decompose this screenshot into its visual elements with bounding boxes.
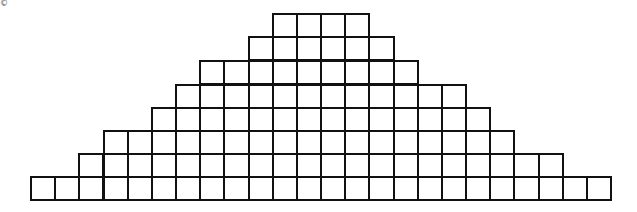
grid-cell: [320, 107, 346, 132]
grid-cell: [223, 60, 249, 85]
grid-cell: [54, 176, 80, 201]
grid-cell: [513, 153, 539, 178]
grid-cell: [296, 176, 322, 201]
grid-cell: [344, 60, 370, 85]
grid-cell: [368, 84, 394, 109]
grid-cell: [465, 153, 491, 178]
grid-cell: [393, 153, 419, 178]
grid-cell: [368, 107, 394, 132]
grid-cell: [417, 107, 443, 132]
grid-cell: [272, 153, 298, 178]
grid-cell: [272, 13, 298, 38]
grid-cell: [393, 176, 419, 201]
grid-cell: [296, 84, 322, 109]
grid-cell: [199, 153, 225, 178]
grid-cell: [320, 153, 346, 178]
grid-cell: [320, 176, 346, 201]
grid-cell: [393, 130, 419, 155]
grid-cell: [199, 130, 225, 155]
grid-cell: [272, 36, 298, 61]
grid-cell: [78, 176, 104, 201]
grid-cell: [272, 60, 298, 85]
grid-cell: [586, 176, 612, 201]
grid-cell: [248, 84, 274, 109]
grid-cell: [272, 130, 298, 155]
grid-cell: [417, 153, 443, 178]
grid-cell: [248, 153, 274, 178]
grid-cell: [296, 130, 322, 155]
grid-cell: [296, 153, 322, 178]
grid-cell: [393, 107, 419, 132]
grid-cell: [223, 84, 249, 109]
grid-cell: [272, 84, 298, 109]
grid-cell: [465, 107, 491, 132]
grid-cell: [248, 36, 274, 61]
grid-cell: [368, 153, 394, 178]
grid-cell: [103, 176, 129, 201]
grid-cell: [417, 130, 443, 155]
grid-cell: [320, 13, 346, 38]
grid-cell: [30, 176, 56, 201]
grid-cell: [465, 176, 491, 201]
grid-cell: [368, 130, 394, 155]
grid-cell: [151, 107, 177, 132]
grid-cell: [296, 13, 322, 38]
grid-cell: [489, 153, 515, 178]
grid-cell: [223, 130, 249, 155]
grid-cell: [417, 84, 443, 109]
grid-cell: [344, 153, 370, 178]
grid-cell: [199, 107, 225, 132]
grid-cell: [344, 176, 370, 201]
grid-cell: [175, 130, 201, 155]
grid-cell: [248, 130, 274, 155]
grid-cell: [344, 36, 370, 61]
grid-cell: [320, 84, 346, 109]
grid-cell: [393, 60, 419, 85]
grid-cell: [248, 107, 274, 132]
grid-cell: [513, 176, 539, 201]
grid-cell: [368, 36, 394, 61]
grid-cell: [127, 176, 153, 201]
grid-cell: [320, 36, 346, 61]
grid-cell: [465, 130, 491, 155]
grid-cell: [489, 176, 515, 201]
grid-cell: [296, 107, 322, 132]
grid-cell: [248, 176, 274, 201]
grid-cell: [441, 153, 467, 178]
grid-cell: [223, 107, 249, 132]
grid-cell: [272, 107, 298, 132]
grid-cell: [199, 60, 225, 85]
grid-cell: [368, 176, 394, 201]
grid-cell: [175, 84, 201, 109]
grid-cell: [103, 153, 129, 178]
grid-cell: [489, 130, 515, 155]
grid-cell: [344, 130, 370, 155]
grid-cell: [175, 176, 201, 201]
grid-cell: [151, 153, 177, 178]
stepped-grid-diagram: [0, 0, 637, 212]
grid-cell: [248, 60, 274, 85]
grid-cell: [127, 153, 153, 178]
grid-cell: [199, 176, 225, 201]
grid-cell: [368, 60, 394, 85]
grid-cell: [175, 107, 201, 132]
grid-cell: [296, 60, 322, 85]
grid-cell: [223, 153, 249, 178]
grid-cell: [393, 84, 419, 109]
grid-cell: [296, 36, 322, 61]
grid-cell: [127, 130, 153, 155]
grid-cell: [441, 130, 467, 155]
grid-cell: [320, 60, 346, 85]
grid-cell: [344, 13, 370, 38]
grid-cell: [344, 107, 370, 132]
grid-cell: [562, 176, 588, 201]
grid-cell: [199, 84, 225, 109]
grid-cell: [103, 130, 129, 155]
grid-cell: [175, 153, 201, 178]
grid-cell: [78, 153, 104, 178]
grid-cell: [417, 176, 443, 201]
grid-cell: [151, 130, 177, 155]
grid-cell: [223, 176, 249, 201]
grid-cell: [538, 176, 564, 201]
grid-cell: [272, 176, 298, 201]
